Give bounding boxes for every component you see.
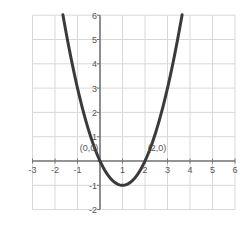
tick-labels: -3-2-1123456-2-1123456 — [28, 11, 237, 215]
x-tick-label: -1 — [73, 165, 81, 175]
x-tick-label: 5 — [210, 165, 215, 175]
y-tick-label: 2 — [92, 108, 97, 118]
y-tick-label: 6 — [92, 11, 97, 21]
parabola-chart: -3-2-1123456-2-1123456 (0,0)(2,0) — [0, 0, 249, 228]
x-tick-label: 6 — [232, 165, 237, 175]
y-tick-label: -2 — [89, 205, 97, 215]
x-tick-label: 1 — [120, 165, 125, 175]
y-tick-label: -1 — [89, 181, 97, 191]
x-tick-label: -2 — [51, 165, 59, 175]
y-tick-label: 4 — [92, 59, 97, 69]
point-label: (0,0) — [80, 143, 99, 153]
y-tick-label: 5 — [92, 35, 97, 45]
x-tick-label: -3 — [28, 165, 36, 175]
x-tick-label: 4 — [187, 165, 192, 175]
x-tick-label: 3 — [165, 165, 170, 175]
y-tick-label: 3 — [92, 84, 97, 94]
point-label: (2,0) — [148, 143, 167, 153]
